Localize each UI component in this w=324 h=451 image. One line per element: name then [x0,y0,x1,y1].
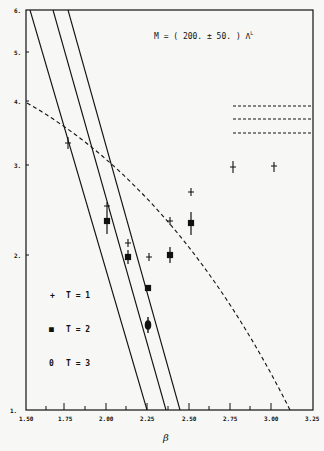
plot-frame [26,10,313,410]
legend-label-t1: T = 1 [66,291,90,300]
legend-symbol-t2: ■ [49,325,54,334]
svg-text:3.: 3. [14,162,21,169]
series-t1-markers [65,137,277,261]
svg-text:5.: 5. [14,49,21,56]
svg-text:4.: 4. [14,98,21,105]
svg-text:3.00: 3.00 [264,415,279,422]
svg-text:1.75: 1.75 [58,415,73,422]
chart: 6. 5. 4. 3. 2. 1. 1.50 1.75 2.00 2.25 2.… [0,0,324,451]
svg-text:2.50: 2.50 [182,415,197,422]
svg-text:2.00: 2.00 [99,415,114,422]
x-tick-labels: 1.50 1.75 2.00 2.25 2.50 2.75 3.00 3.25 [19,415,320,422]
x-axis [46,403,271,410]
svg-text:3.25: 3.25 [305,415,320,422]
legend: + T = 1 ■ T = 2 0 T = 3 [49,291,90,368]
svg-text:2.: 2. [14,252,21,259]
dashed-horizontal-lines [233,106,313,133]
legend-label-t3: T = 3 [66,359,90,368]
svg-text:1.: 1. [10,407,17,414]
legend-symbol-t3: 0 [49,359,54,368]
legend-symbol-t1: + [50,291,55,300]
svg-text:1.50: 1.50 [19,415,34,422]
svg-text:2.25: 2.25 [140,415,155,422]
series-t2-markers [105,210,194,291]
svg-text:2.75: 2.75 [223,415,238,422]
legend-label-t2: T = 2 [66,325,90,334]
chart-title: M = ( 200. ± 50. ) ΛL [154,30,253,41]
x-axis-label: β [162,432,169,443]
y-tick-labels: 6. 5. 4. 3. 2. 1. [10,7,21,414]
svg-text:6.: 6. [14,7,21,14]
series-t3-markers [145,317,150,333]
